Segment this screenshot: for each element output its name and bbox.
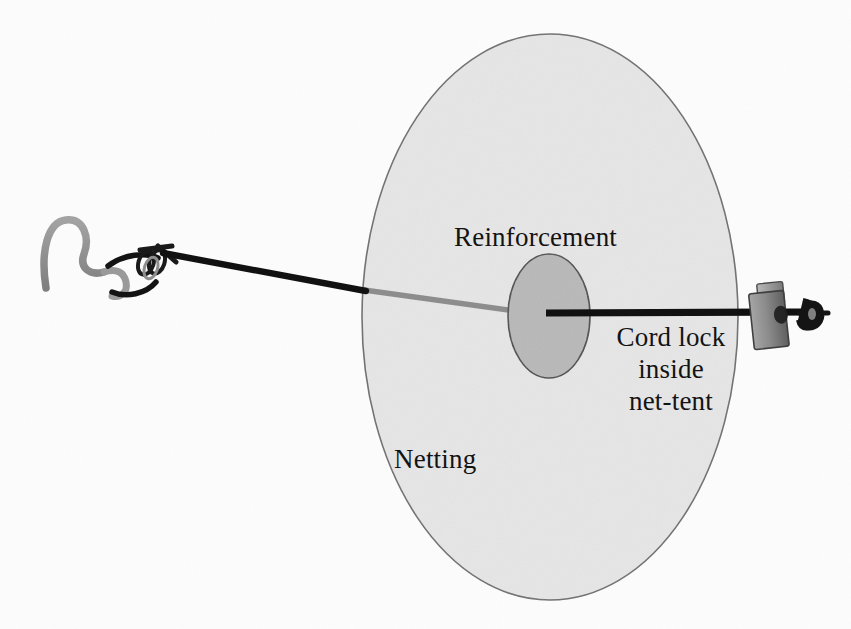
label-netting: Netting (394, 444, 476, 476)
net-tent-diagram: Reinforcement Netting Cord lock inside n… (0, 0, 851, 629)
label-cord-lock: Cord lock inside net-tent (588, 322, 754, 418)
label-cord-lock-line3: net-tent (588, 386, 754, 418)
label-cord-lock-line1: Cord lock (588, 322, 754, 354)
label-reinforcement: Reinforcement (454, 222, 617, 254)
diagram-canvas (0, 0, 851, 629)
label-cord-lock-line2: inside (588, 354, 754, 386)
